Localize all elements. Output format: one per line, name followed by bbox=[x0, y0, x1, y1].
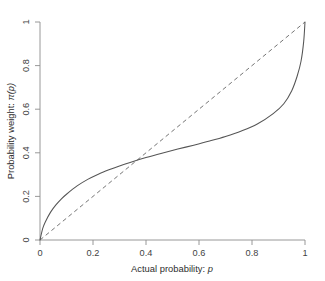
y-tick-label: 0 bbox=[21, 237, 31, 242]
x-tick-label: 0.6 bbox=[193, 248, 206, 258]
y-tick-label: 0.6 bbox=[21, 103, 31, 116]
y-tick-label: 0.8 bbox=[21, 59, 31, 72]
y-axis-title-main: Probability weight: bbox=[5, 101, 16, 180]
y-axis-title: Probability weight: π(p) bbox=[5, 83, 16, 179]
x-tick-label: 0.2 bbox=[87, 248, 100, 258]
x-axis-title-main: Actual probability: bbox=[131, 263, 208, 274]
y-tick-label: 0.4 bbox=[21, 146, 31, 159]
x-axis-title-variable: p bbox=[207, 263, 213, 274]
x-tick-label: 0 bbox=[37, 248, 42, 258]
y-tick-label: 1 bbox=[21, 19, 31, 24]
probability-weighting-chart: 0 0.2 0.4 0.6 0.8 1 0 0.2 0.4 0.6 0.8 1 … bbox=[0, 0, 325, 281]
chart-background bbox=[0, 0, 325, 281]
y-axis-title-variable: π(p) bbox=[5, 83, 16, 101]
x-tick-label: 0.4 bbox=[140, 248, 153, 258]
x-tick-label: 0.8 bbox=[246, 248, 259, 258]
x-axis-title: Actual probability: p bbox=[131, 263, 213, 274]
y-tick-label: 0.2 bbox=[21, 190, 31, 203]
x-tick-label: 1 bbox=[302, 248, 307, 258]
chart-figure: 0 0.2 0.4 0.6 0.8 1 0 0.2 0.4 0.6 0.8 1 … bbox=[0, 0, 325, 281]
